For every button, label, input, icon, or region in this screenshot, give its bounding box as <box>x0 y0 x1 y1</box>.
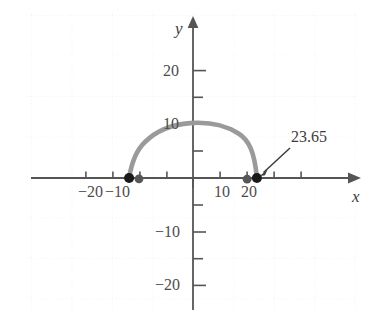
y-tick-label-neg20: −20 <box>155 277 180 293</box>
background-grid <box>26 12 356 312</box>
chart-figure: −20 −10 10 20 20 10 −10 −20 y x 23.65 <box>0 0 379 331</box>
x-axis-name: x <box>352 188 360 205</box>
y-tick-label-10: 10 <box>163 116 179 132</box>
right-black-point <box>252 173 262 183</box>
left-black-point <box>124 173 134 183</box>
x-tick-label-10: 10 <box>214 184 230 200</box>
y-axis-name: y <box>175 20 183 37</box>
value-callout-label: 23.65 <box>291 129 327 145</box>
plot-canvas <box>0 0 379 331</box>
y-tick-label-20: 20 <box>163 63 179 79</box>
y-tick-label-neg10: −10 <box>155 224 180 240</box>
x-tick-label-20: 20 <box>241 184 257 200</box>
x-tick-label-neg20: −20 <box>78 184 103 200</box>
left-gray-point <box>135 174 144 183</box>
x-tick-label-neg10: −10 <box>105 184 130 200</box>
